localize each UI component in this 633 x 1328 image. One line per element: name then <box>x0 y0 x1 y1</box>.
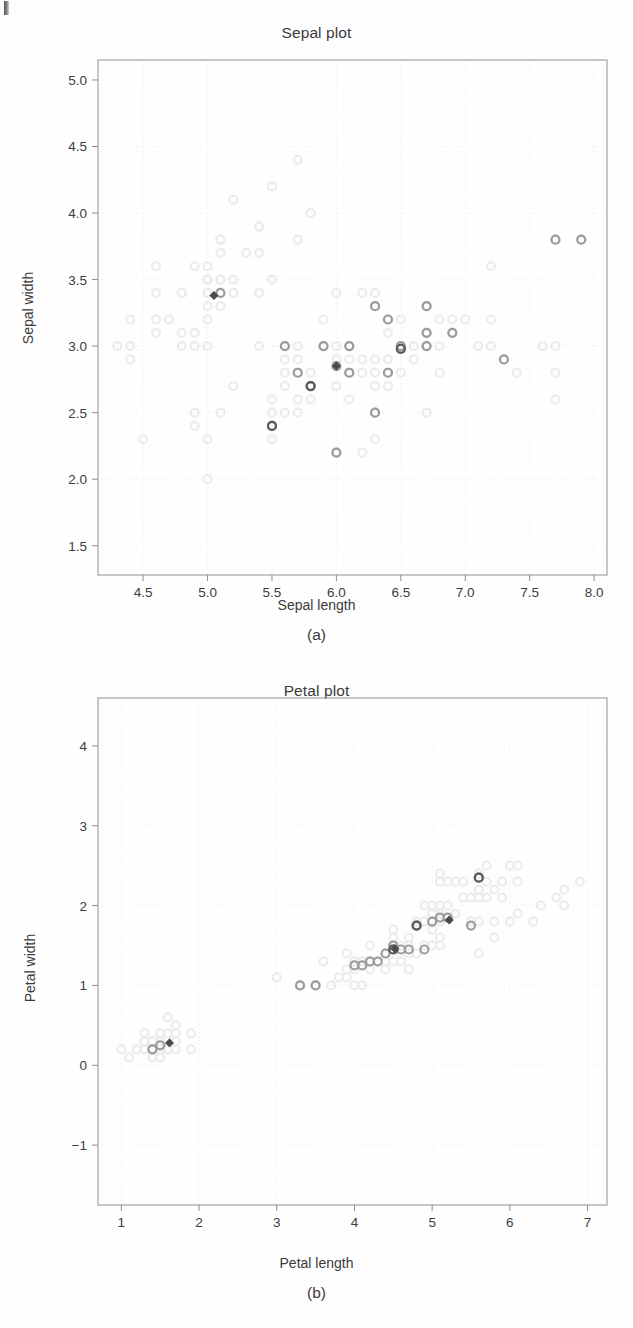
svg-text:1: 1 <box>79 978 87 993</box>
petal-y-axis-label: Petal width <box>22 923 38 1013</box>
svg-text:5.0: 5.0 <box>68 73 87 88</box>
svg-text:2.0: 2.0 <box>68 472 87 487</box>
petal-plot-panel: Petal plot 1234567−101234 Petal width Pe… <box>0 660 633 1328</box>
svg-text:6: 6 <box>506 1215 514 1230</box>
svg-text:1: 1 <box>118 1215 126 1230</box>
petal-x-axis-label: Petal length <box>0 1255 633 1271</box>
svg-text:3.0: 3.0 <box>68 339 87 354</box>
svg-text:0: 0 <box>79 1058 87 1073</box>
svg-text:5: 5 <box>428 1215 436 1230</box>
svg-text:4: 4 <box>79 739 87 754</box>
svg-text:2.5: 2.5 <box>68 406 87 421</box>
sepal-panel-caption: (a) <box>0 626 633 644</box>
figure-page: Sepal plot 4.55.05.56.06.57.07.58.01.52.… <box>0 0 633 1328</box>
svg-text:2: 2 <box>195 1215 203 1230</box>
svg-text:3: 3 <box>273 1215 281 1230</box>
svg-text:4.0: 4.0 <box>68 206 87 221</box>
svg-text:4.5: 4.5 <box>68 139 87 154</box>
svg-text:7: 7 <box>584 1215 592 1230</box>
sepal-x-axis-label: Sepal length <box>0 597 633 613</box>
svg-text:3.5: 3.5 <box>68 273 87 288</box>
svg-text:−1: −1 <box>72 1138 87 1153</box>
petal-scatter-canvas: 1234567−101234 <box>0 660 633 1260</box>
svg-text:2: 2 <box>79 899 87 914</box>
svg-text:3: 3 <box>79 819 87 834</box>
svg-text:4: 4 <box>351 1215 359 1230</box>
svg-text:1.5: 1.5 <box>68 539 87 554</box>
sepal-scatter-canvas: 4.55.05.56.06.57.07.58.01.52.02.53.03.54… <box>0 0 633 600</box>
sepal-plot-panel: Sepal plot 4.55.05.56.06.57.07.58.01.52.… <box>0 0 633 660</box>
petal-panel-caption: (b) <box>0 1284 633 1302</box>
sepal-y-axis-label: Sepal width <box>20 263 36 353</box>
